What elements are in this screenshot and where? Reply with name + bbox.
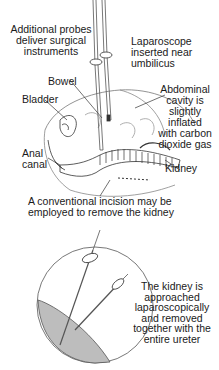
label-abdominal-cavity: Abdominal cavity is slightly inflated wi… [155, 84, 215, 150]
label-bladder: Bladder [22, 94, 58, 105]
label-probes: Additional probes deliver surgical instr… [6, 24, 96, 57]
label-bowel: Bowel [48, 76, 77, 87]
probes [90, 0, 112, 150]
label-approach: The kidney is approached laparoscopicall… [127, 281, 217, 344]
label-anal-canal: Anal canal [22, 148, 47, 170]
label-incision: A conventional incision may be employed … [28, 196, 174, 218]
label-kidney: Kidney [165, 163, 197, 174]
label-laparoscope: Laparoscope inserted near umbilicus [131, 36, 192, 69]
